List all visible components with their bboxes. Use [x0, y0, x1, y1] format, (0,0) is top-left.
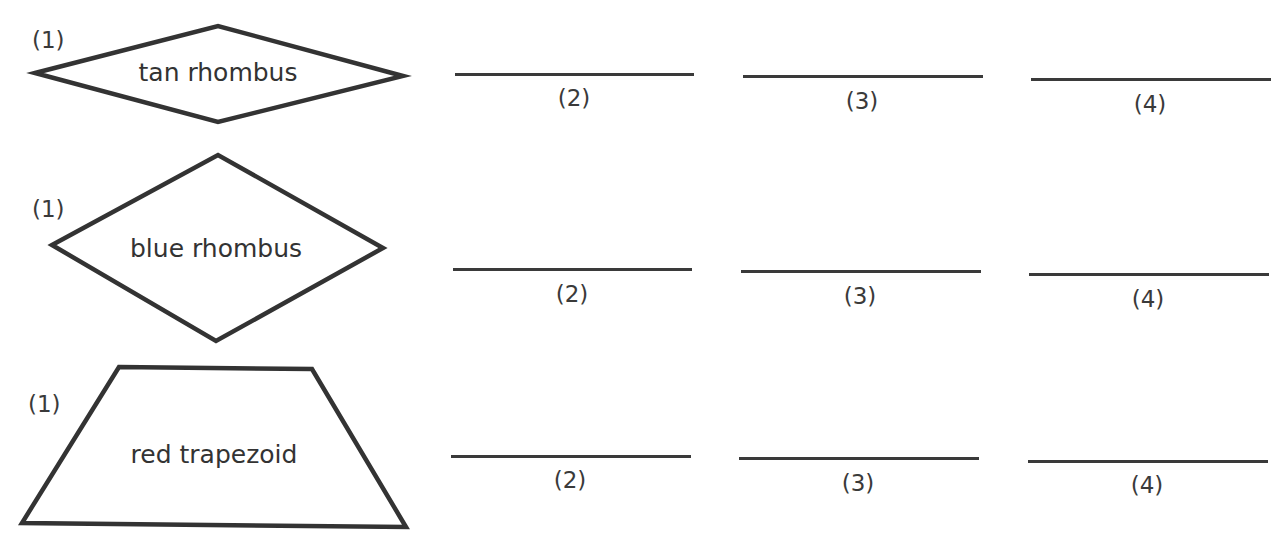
row-2-number: (1): [32, 198, 65, 221]
row-1-answer-label-3: (3): [846, 90, 879, 113]
row-3-answer-line-4[interactable]: [1028, 460, 1268, 463]
row-1-answer-label-2: (2): [558, 87, 591, 110]
row-3-number: (1): [28, 393, 61, 416]
row-1-answer-line-3[interactable]: [743, 75, 983, 78]
worksheet: (1) tan rhombus (2) (3) (4) (1) blue rho…: [0, 0, 1284, 547]
row-3-answer-label-2: (2): [554, 469, 587, 492]
row-2-answer-label-2: (2): [556, 283, 589, 306]
row-1-number: (1): [32, 29, 65, 52]
row-1-answer-label-4: (4): [1134, 93, 1167, 116]
row-2-answer-line-2[interactable]: [453, 268, 692, 271]
row-3-answer-line-3[interactable]: [739, 457, 979, 460]
row-2-answer-label-4: (4): [1132, 288, 1165, 311]
row-2-shape-label: blue rhombus: [130, 236, 302, 261]
row-2-answer-label-3: (3): [844, 285, 877, 308]
row-1-answer-line-4[interactable]: [1031, 78, 1271, 81]
row-3-answer-label-3: (3): [842, 472, 875, 495]
row-2-answer-line-4[interactable]: [1029, 273, 1269, 276]
row-3-shape-label: red trapezoid: [131, 442, 298, 467]
row-3-answer-label-4: (4): [1131, 474, 1164, 497]
row-1-shape-label: tan rhombus: [139, 60, 298, 85]
row-1-answer-line-2[interactable]: [455, 73, 694, 76]
row-2-answer-line-3[interactable]: [741, 270, 981, 273]
row-3-answer-line-2[interactable]: [451, 455, 691, 458]
